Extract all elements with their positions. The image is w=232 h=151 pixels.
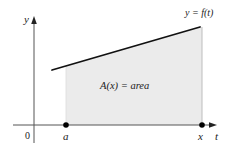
point-x-label: x [198,130,203,142]
shaded-area-region [66,27,202,125]
y-axis-arrow-icon [31,16,37,24]
point-a-label: a [63,130,69,142]
region-label: A(x) = area [100,80,149,91]
area-function-diagram: y y = f(t) A(x) = area 0 a x t [0,0,232,151]
diagram-canvas [0,0,232,151]
curve-label: y = f(t) [185,7,213,18]
point-a [63,122,69,128]
t-axis-label: t [215,130,218,142]
t-axis-arrow-icon [209,122,217,128]
y-axis-label: y [24,13,29,25]
point-x [199,122,205,128]
origin-label: 0 [25,130,30,141]
